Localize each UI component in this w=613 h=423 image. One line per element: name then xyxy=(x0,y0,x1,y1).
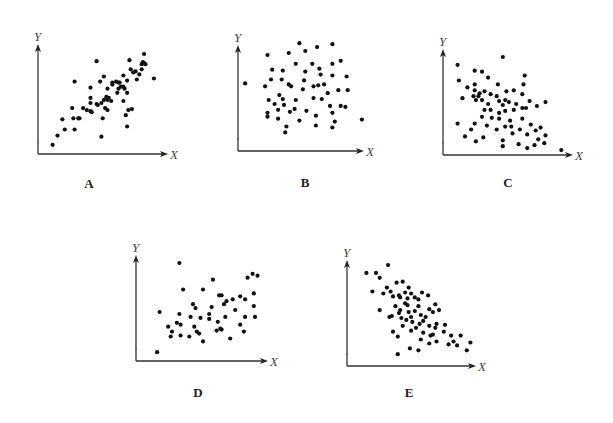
data-point-e-13 xyxy=(398,295,402,299)
data-point-c-37 xyxy=(520,106,524,110)
data-point-c-38 xyxy=(524,106,528,110)
data-point-c-33 xyxy=(489,108,493,112)
data-point-e-37 xyxy=(398,308,402,312)
data-point-c-50 xyxy=(518,127,522,131)
data-point-c-34 xyxy=(497,111,501,115)
data-point-e-2 xyxy=(378,276,382,280)
data-point-a-5 xyxy=(71,116,75,120)
scatter-figure: XYA XYB XYC XYD XYE xyxy=(0,0,613,423)
data-point-c-7 xyxy=(473,82,477,86)
data-point-e-63 xyxy=(416,348,420,352)
data-point-a-44 xyxy=(123,87,127,91)
panel-label-d: D xyxy=(193,385,202,400)
data-point-d-26 xyxy=(228,336,232,340)
data-point-a-10 xyxy=(81,106,85,110)
data-point-e-49 xyxy=(421,331,425,335)
data-point-b-5 xyxy=(315,45,319,49)
data-point-c-63 xyxy=(536,137,540,141)
panel-label-a: A xyxy=(84,176,94,191)
data-point-c-19 xyxy=(495,94,499,98)
data-point-a-28 xyxy=(105,108,109,112)
data-point-d-28 xyxy=(238,294,242,298)
data-point-a-57 xyxy=(140,67,144,71)
data-point-a-47 xyxy=(125,91,129,95)
data-point-a-54 xyxy=(134,69,138,73)
data-point-b-33 xyxy=(320,97,324,101)
data-point-e-52 xyxy=(442,330,446,334)
data-point-d-24 xyxy=(216,320,220,324)
data-point-d-21 xyxy=(220,328,224,332)
data-point-c-27 xyxy=(501,103,505,107)
data-point-a-6 xyxy=(73,127,77,131)
data-point-d-7 xyxy=(179,333,183,337)
data-point-b-23 xyxy=(301,87,305,91)
x-axis-label: X xyxy=(269,354,279,369)
data-point-a-45 xyxy=(124,113,128,117)
panel-e: XYE xyxy=(343,245,487,400)
data-point-c-59 xyxy=(463,134,467,138)
y-axis-label: Y xyxy=(34,29,43,44)
data-point-d-6 xyxy=(179,323,183,327)
data-point-c-62 xyxy=(517,142,521,146)
data-point-c-57 xyxy=(534,128,538,132)
data-point-e-42 xyxy=(427,324,431,328)
data-point-a-39 xyxy=(118,81,122,85)
data-point-e-59 xyxy=(468,340,472,344)
data-point-e-20 xyxy=(426,293,430,297)
data-point-d-12 xyxy=(189,315,193,319)
data-point-c-41 xyxy=(490,116,494,120)
data-point-c-49 xyxy=(509,125,513,129)
data-point-e-36 xyxy=(393,304,397,308)
data-point-b-51 xyxy=(314,114,318,118)
data-point-d-13 xyxy=(193,306,197,310)
data-point-e-14 xyxy=(403,290,407,294)
data-point-b-24 xyxy=(287,82,291,86)
data-point-c-69 xyxy=(559,148,563,152)
data-point-e-38 xyxy=(404,318,408,322)
data-point-d-39 xyxy=(192,325,196,329)
data-point-b-35 xyxy=(346,88,350,92)
data-point-c-45 xyxy=(473,122,477,126)
data-point-c-25 xyxy=(486,102,490,106)
data-point-b-11 xyxy=(270,68,274,72)
data-point-a-38 xyxy=(115,91,119,95)
data-point-d-27 xyxy=(233,308,237,312)
data-point-e-0 xyxy=(364,271,368,275)
data-point-e-48 xyxy=(414,326,418,330)
data-point-b-36 xyxy=(267,98,271,102)
data-point-a-13 xyxy=(88,96,92,100)
data-point-e-40 xyxy=(418,322,422,326)
data-point-a-53 xyxy=(130,107,134,111)
data-point-a-62 xyxy=(143,62,147,66)
data-point-d-8 xyxy=(187,334,191,338)
data-point-c-60 xyxy=(481,135,485,139)
data-point-b-56 xyxy=(283,130,287,134)
data-point-e-10 xyxy=(401,280,405,284)
data-point-a-12 xyxy=(88,86,92,90)
data-point-b-16 xyxy=(269,77,273,81)
data-point-e-34 xyxy=(433,302,437,306)
data-point-b-26 xyxy=(311,84,315,88)
data-point-e-54 xyxy=(459,334,463,338)
data-point-d-30 xyxy=(238,323,242,327)
data-point-e-28 xyxy=(413,309,417,313)
data-point-d-47 xyxy=(170,330,174,334)
data-point-b-52 xyxy=(333,120,337,124)
data-point-e-5 xyxy=(381,291,385,295)
data-point-c-48 xyxy=(503,125,507,129)
data-point-c-47 xyxy=(495,127,499,131)
data-point-c-30 xyxy=(528,99,532,103)
data-point-e-8 xyxy=(391,294,395,298)
data-point-b-30 xyxy=(281,97,285,101)
data-point-e-19 xyxy=(420,290,424,294)
data-point-c-22 xyxy=(460,96,464,100)
panel-label-b: B xyxy=(301,175,310,190)
data-point-c-24 xyxy=(480,98,484,102)
data-point-c-39 xyxy=(543,100,547,104)
x-axis-label: X xyxy=(477,359,487,374)
data-point-c-65 xyxy=(474,139,478,143)
panel-c: XYC xyxy=(439,34,584,190)
data-point-a-56 xyxy=(137,72,141,76)
x-axis-label: X xyxy=(574,148,584,163)
data-point-e-21 xyxy=(378,308,382,312)
